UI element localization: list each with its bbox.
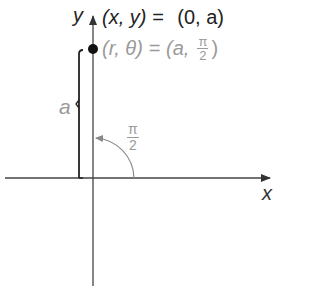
rect-label-lhs: (x, y) = [102, 6, 164, 28]
polar-label-lhs: (r, θ) = [102, 37, 160, 60]
y-axis-label: y [73, 4, 83, 27]
rect-coordinate-label: (x, y) = (0, a) [102, 6, 224, 29]
polar-label-a: (a, [166, 37, 189, 60]
distance-bracket [76, 50, 83, 178]
point-marker [88, 44, 98, 54]
angle-fraction-num: π [127, 122, 139, 138]
polar-fraction-den: 2 [199, 49, 206, 62]
polar-label-fraction: π 2 [197, 35, 208, 62]
polar-label-close: ) [211, 37, 218, 60]
rect-label-rhs: (0, a) [177, 6, 224, 28]
x-axis-label: x [262, 182, 272, 205]
polar-coordinate-label: (r, θ) = (a, π 2 ) [102, 35, 218, 62]
distance-label: a [59, 95, 71, 119]
polar-fraction-num: π [197, 35, 208, 49]
angle-label: π 2 [127, 122, 139, 153]
angle-fraction-den: 2 [129, 138, 137, 153]
